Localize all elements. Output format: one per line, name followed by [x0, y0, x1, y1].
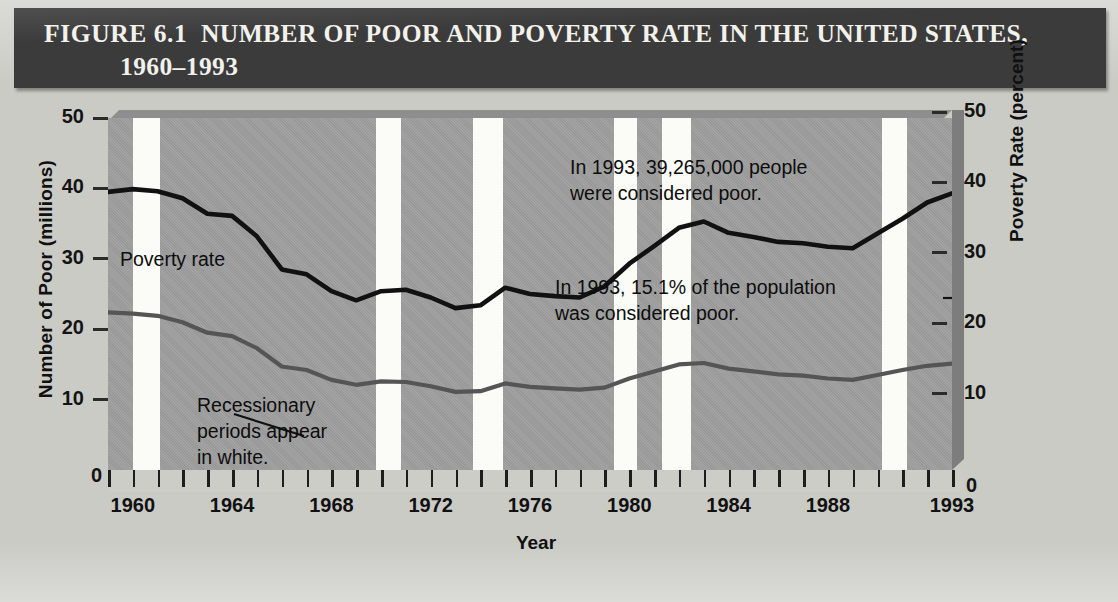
x-tick — [753, 470, 756, 487]
x-tick — [555, 470, 558, 487]
y-tick-left — [93, 187, 108, 190]
x-tick — [406, 470, 409, 487]
annotation-poor-count: In 1993, 39,265,000 people were consider… — [570, 154, 807, 206]
annotation-poverty-rate: In 1993, 15.1% of the population was con… — [555, 274, 836, 326]
x-tick — [431, 470, 434, 487]
figure-title-line2: 1960–1993 — [120, 50, 1084, 83]
figure-page: FIGURE 6.1 NUMBER OF POOR AND POVERTY RA… — [0, 0, 1118, 602]
x-axis: Year 19601964196819721976198019841988199… — [108, 470, 964, 570]
x-tick — [828, 470, 831, 487]
x-tick — [654, 470, 657, 487]
x-tick — [679, 470, 682, 487]
x-tick — [307, 470, 310, 487]
x-tick — [480, 470, 483, 487]
page-title: FIGURE 6.1 NUMBER OF POOR AND POVERTY RA… — [44, 17, 1084, 83]
x-tick — [778, 470, 781, 487]
y-tick-left — [93, 117, 108, 120]
figure-title-line1: NUMBER OF POOR AND POVERTY RATE IN THE U… — [201, 19, 1028, 48]
x-tick — [133, 470, 136, 487]
x-tick — [629, 470, 632, 487]
x-tick — [158, 470, 161, 487]
x-label: 1993 — [930, 494, 975, 517]
x-tick — [729, 470, 732, 487]
x-label: 1972 — [408, 494, 453, 517]
y-label-right: 20 — [964, 310, 1010, 333]
x-tick — [456, 470, 459, 487]
x-label: 1976 — [508, 494, 553, 517]
y-axis-left-zero: 0 — [62, 464, 102, 487]
x-label: 1968 — [309, 494, 354, 517]
series-label-poverty-rate: Poverty rate — [120, 246, 225, 272]
figure-label: FIGURE 6.1 — [44, 19, 187, 48]
y-tick-right — [932, 251, 947, 254]
x-tick — [108, 470, 111, 487]
y-axis-right-title: Poverty Rate (percent) — [1006, 0, 1028, 242]
y-label-right: 40 — [964, 169, 1010, 192]
chart-area: Poverty rate Recessionary periods appear… — [0, 92, 1118, 602]
x-tick — [878, 470, 881, 487]
y-label-right: 10 — [964, 381, 1010, 404]
x-tick — [604, 470, 607, 487]
y-tick-right — [932, 392, 947, 395]
x-tick — [530, 470, 533, 487]
x-label: 1988 — [806, 494, 851, 517]
x-tick — [232, 470, 235, 487]
y-tick-left — [93, 398, 108, 401]
x-label: 1984 — [706, 494, 751, 517]
x-tick — [282, 470, 285, 487]
x-tick — [803, 470, 806, 487]
x-label: 1964 — [210, 494, 255, 517]
y-tick-left — [93, 257, 108, 260]
y-axis-left-title: Number of Poor (millions) — [35, 129, 57, 429]
y-label-right: 30 — [964, 240, 1010, 263]
annotation-recession-note: Recessionary periods appear in white. — [197, 392, 327, 470]
x-label: 1980 — [607, 494, 652, 517]
x-tick — [927, 470, 930, 487]
x-axis-title: Year — [108, 532, 964, 554]
x-tick — [952, 470, 955, 487]
x-tick — [257, 470, 260, 487]
figure-title-banner: FIGURE 6.1 NUMBER OF POOR AND POVERTY RA… — [14, 8, 1106, 88]
x-tick — [853, 470, 856, 487]
y-tick-left — [93, 328, 108, 331]
y-tick-right — [932, 111, 947, 114]
x-tick — [356, 470, 359, 487]
y-label-right: 50 — [964, 99, 1010, 122]
x-tick — [207, 470, 210, 487]
x-tick — [902, 470, 905, 487]
y-tick-right — [932, 181, 947, 184]
x-tick — [704, 470, 707, 487]
x-tick — [580, 470, 583, 487]
chart-right-bevel — [952, 110, 964, 470]
x-label: 1960 — [111, 494, 156, 517]
x-tick — [505, 470, 508, 487]
x-tick — [381, 470, 384, 487]
y-label-left: 50 — [38, 105, 84, 128]
y-tick-right — [932, 322, 947, 325]
x-tick — [331, 470, 334, 487]
x-tick — [182, 470, 185, 487]
